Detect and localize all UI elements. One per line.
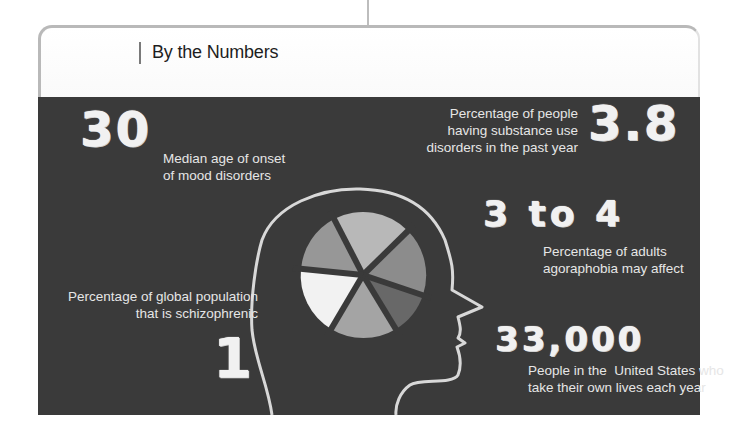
label-line: agoraphobia may affect bbox=[543, 260, 684, 277]
card-title: By the Numbers bbox=[152, 42, 278, 63]
stat-label-agoraphobia: Percentage of adults agoraphobia may aff… bbox=[543, 243, 684, 277]
stat-value-schizophrenia: 1 bbox=[213, 325, 254, 390]
stat-label-substance-use: Percentage of people having substance us… bbox=[380, 105, 578, 156]
label-line: Percentage of adults bbox=[543, 243, 684, 260]
label-line: People in the United States who bbox=[528, 362, 724, 379]
label-line: Percentage of people bbox=[380, 105, 578, 122]
label-line: Median age of onset bbox=[163, 150, 285, 167]
stat-label-schizophrenia: Percentage of global population that is … bbox=[58, 288, 258, 322]
label-line: of mood disorders bbox=[163, 167, 285, 184]
connector-line bbox=[367, 0, 369, 26]
stat-value-agoraphobia: 3 to 4 bbox=[483, 193, 624, 234]
header-divider bbox=[139, 42, 141, 64]
pie-chart bbox=[293, 211, 431, 338]
stat-label-median-age: Median age of onset of mood disorders bbox=[163, 150, 285, 184]
chalkboard-panel: 30 Median age of onset of mood disorders… bbox=[38, 97, 700, 415]
stat-value-median-age: 30 bbox=[80, 101, 151, 157]
label-line: that is schizophrenic bbox=[58, 305, 258, 322]
by-the-numbers-card: By the Numbers bbox=[38, 25, 700, 415]
stat-value-suicides: 33,000 bbox=[495, 319, 644, 359]
label-line: Percentage of global population bbox=[58, 288, 258, 305]
label-line: disorders in the past year bbox=[380, 139, 578, 156]
card-header: By the Numbers bbox=[38, 25, 700, 97]
label-line: having substance use bbox=[380, 122, 578, 139]
stat-value-substance-use: 3.8 bbox=[588, 95, 679, 151]
stat-label-suicides: People in the United States who take the… bbox=[528, 362, 724, 396]
label-line: take their own lives each year bbox=[528, 379, 724, 396]
